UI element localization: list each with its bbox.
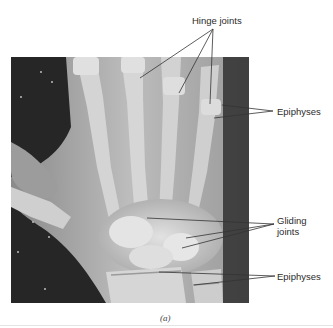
label-hinge-joints: Hinge joints xyxy=(192,15,242,26)
figure-caption: (a) xyxy=(160,313,171,323)
hand-xray-figure: Hinge joints Epiphyses Gliding joints Ep… xyxy=(0,0,333,328)
label-gliding-joints-line2: joints xyxy=(277,226,299,237)
label-gliding-joints-line1: Gliding xyxy=(277,215,307,226)
label-epiphyses-bottom: Epiphyses xyxy=(277,271,321,282)
bottom-divider xyxy=(0,325,333,326)
label-epiphyses-top: Epiphyses xyxy=(277,106,321,117)
